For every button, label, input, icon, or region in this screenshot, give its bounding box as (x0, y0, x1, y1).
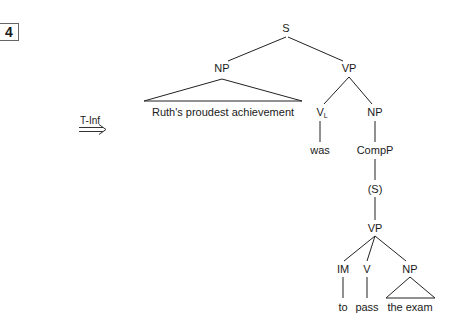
terminal-pass: pass (355, 301, 378, 313)
v-subscript: L (324, 112, 328, 119)
node-s: S (282, 22, 289, 34)
node-subject-np: NP (214, 62, 229, 74)
node-optional-s: (S) (368, 183, 383, 195)
terminal-to: to (338, 301, 347, 313)
node-inner-vp: VP (368, 222, 383, 234)
terminal-the-exam: the exam (387, 301, 432, 313)
node-object-np: NP (367, 106, 382, 118)
terminal-subject: Ruth's proudest achievement (152, 106, 294, 118)
node-inner-np: NP (402, 263, 417, 275)
node-im: IM (337, 263, 349, 275)
node-compp: CompP (357, 144, 394, 156)
terminal-was: was (310, 144, 330, 156)
tree-branches (0, 0, 456, 329)
node-inner-v: V (363, 263, 370, 275)
node-vp: VP (342, 62, 357, 74)
node-v-linking: VL (316, 106, 327, 119)
